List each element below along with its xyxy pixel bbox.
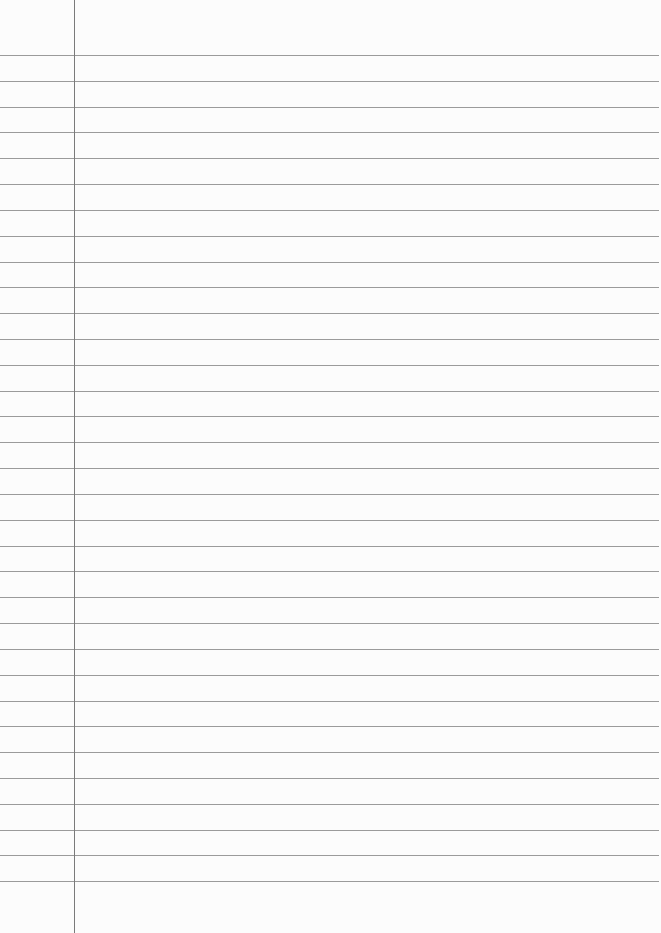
ruled-line <box>0 726 659 727</box>
ruled-line <box>0 365 659 366</box>
ruled-line <box>0 881 659 882</box>
lined-paper <box>0 0 661 933</box>
ruled-line <box>0 623 659 624</box>
ruled-line <box>0 391 659 392</box>
ruled-line <box>0 210 659 211</box>
ruled-line <box>0 107 659 108</box>
ruled-line <box>0 81 659 82</box>
ruled-line <box>0 752 659 753</box>
ruled-line <box>0 494 659 495</box>
ruled-line <box>0 520 659 521</box>
ruled-line <box>0 675 659 676</box>
ruled-line <box>0 416 659 417</box>
ruled-line <box>0 804 659 805</box>
ruled-line <box>0 855 659 856</box>
ruled-line <box>0 132 659 133</box>
ruled-line <box>0 262 659 263</box>
ruled-line <box>0 55 659 56</box>
ruled-line <box>0 158 659 159</box>
ruled-line <box>0 778 659 779</box>
ruled-line <box>0 313 659 314</box>
ruled-line <box>0 442 659 443</box>
ruled-line <box>0 287 659 288</box>
ruled-line <box>0 339 659 340</box>
ruled-line <box>0 184 659 185</box>
ruled-line <box>0 236 659 237</box>
ruled-line <box>0 571 659 572</box>
ruled-line <box>0 701 659 702</box>
margin-line <box>74 0 75 933</box>
ruled-line <box>0 830 659 831</box>
ruled-line <box>0 597 659 598</box>
ruled-line <box>0 649 659 650</box>
ruled-line <box>0 468 659 469</box>
ruled-line <box>0 546 659 547</box>
